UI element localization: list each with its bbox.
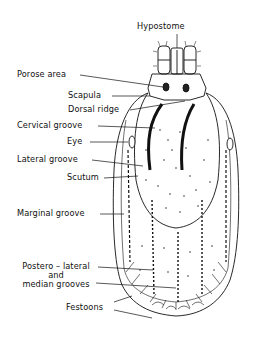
leader-festoons-1 — [114, 296, 132, 302]
label-median-grooves: median grooves — [17, 279, 95, 289]
label-porose-area: Porose area — [17, 69, 66, 79]
scutum-outline — [135, 93, 220, 228]
tick-anatomy-diagram: Hypostome Porose area Scapula Dorsal rid… — [0, 0, 262, 344]
leader-postero-lateral — [98, 267, 153, 270]
leader-porose-area — [80, 75, 163, 87]
leader-median — [96, 283, 176, 288]
label-scutum: Scutum — [67, 172, 99, 182]
label-hypostome: Hypostome — [137, 21, 185, 31]
label-eye: Eye — [67, 136, 82, 146]
body-outline — [113, 93, 238, 316]
label-cervical-groove: Cervical groove — [17, 120, 82, 130]
label-lateral-groove: Lateral groove — [17, 154, 78, 164]
label-marginal-groove: Marginal groove — [17, 208, 85, 218]
leader-scutum — [104, 176, 138, 178]
label-scapula: Scapula — [68, 90, 101, 100]
leader-cervical-groove — [98, 126, 155, 128]
leader-lateral-groove — [92, 160, 143, 166]
tick-drawing — [0, 0, 262, 344]
capitulum-base — [148, 74, 206, 100]
label-dorsal-ridge: Dorsal ridge — [68, 104, 119, 114]
label-festoons: Festoons — [66, 302, 103, 312]
leader-festoons-2 — [114, 310, 152, 318]
